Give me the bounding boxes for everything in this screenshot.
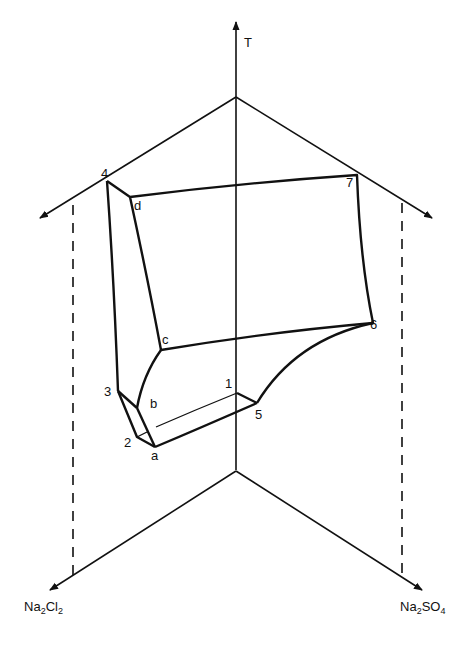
point-4-label: 4 [101, 167, 108, 180]
phase-surfaces [107, 175, 373, 447]
dashed-edges [73, 203, 402, 576]
point-b-label: b [150, 397, 157, 410]
point-d-label: d [134, 199, 141, 212]
point-c-label: c [162, 333, 169, 346]
point-7-label: 7 [346, 176, 353, 189]
component-na2so4-label: Na2SO4 [400, 600, 445, 616]
point-6-label: 6 [370, 318, 377, 331]
point-1-label: 1 [225, 377, 232, 390]
base-axes [50, 471, 422, 590]
phase-diagram: T 4 d 7 c 6 3 b 1 5 2 a Na2Cl2 Na2SO4 [0, 0, 472, 653]
temperature-label: T [244, 36, 252, 49]
point-2-label: 2 [124, 436, 131, 449]
point-3-label: 3 [104, 385, 111, 398]
point-5-label: 5 [255, 408, 262, 421]
component-nacl-label: Na2Cl2 [24, 600, 63, 616]
point-a-label: a [151, 449, 158, 462]
diagram-lines [0, 0, 472, 653]
